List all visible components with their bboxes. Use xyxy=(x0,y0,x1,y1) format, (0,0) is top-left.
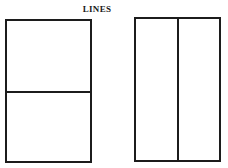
rectangle-vertical-line xyxy=(134,17,221,162)
vertical-divider-line xyxy=(177,19,179,160)
horizontal-divider-line xyxy=(7,91,90,93)
diagram-title: LINES xyxy=(78,4,116,15)
rectangle-horizontal-line xyxy=(5,19,92,163)
